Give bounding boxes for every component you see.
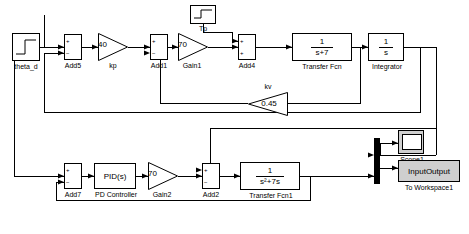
add4-sign-plus-1: + — [240, 38, 244, 44]
step-block[interactable] — [12, 33, 40, 61]
add4-sign-plus-2: + — [240, 50, 244, 56]
kv-gain-value: 0.45 — [254, 100, 284, 108]
transfer-fcn1-label: Transfer Fcn1 — [236, 192, 306, 200]
add2-sign-minus: − — [204, 179, 208, 185]
transfer-fcn-denominator: s+7 — [313, 49, 330, 57]
add2-label: Add2 — [196, 191, 226, 199]
add5-sign-minus: − — [66, 50, 70, 56]
pd-controller-text: PID(s) — [104, 172, 127, 181]
add7-sign-plus: + — [66, 167, 70, 173]
add5-sign-plus: + — [66, 38, 70, 44]
transfer-fcn-numerator: 1 — [318, 38, 326, 46]
gain2-value: 70 — [148, 170, 170, 178]
kv-label: kv — [250, 83, 286, 91]
to-workspace-label: To Workspace1 — [393, 184, 465, 192]
mux-block[interactable] — [374, 138, 380, 184]
to-workspace-text: InputOutput — [408, 167, 450, 176]
add1-label: Add1 — [144, 62, 174, 70]
add1-sign-plus: + — [152, 38, 156, 44]
kp-label: kp — [99, 62, 127, 70]
block-diagram-canvas: theta_d + − Add5 40 kp + − Add1 70 Gain1… — [0, 0, 469, 234]
add1-sign-minus: − — [152, 50, 156, 56]
pd-controller-label: PD Controller — [88, 191, 144, 199]
step-label: theta_d — [6, 63, 46, 71]
integrator-label: Integrator — [364, 63, 410, 71]
gain1-value: 70 — [178, 41, 200, 49]
integrator-denominator: s — [382, 49, 390, 57]
gain1-label: Gain1 — [175, 62, 209, 70]
tp-label: Tp — [189, 25, 217, 33]
transfer-fcn-label: Transfer Fcn — [288, 63, 356, 71]
pd-controller-block[interactable]: PID(s) — [94, 163, 136, 189]
tp-block[interactable] — [190, 5, 216, 24]
transfer-fcn-block[interactable]: 1 s+7 — [292, 33, 352, 61]
scope1-block[interactable] — [398, 130, 424, 154]
add4-label: Add4 — [232, 62, 262, 70]
transfer-fcn1-numerator: 1 — [266, 167, 274, 175]
transfer-fcn1-block[interactable]: 1 s²+7s — [240, 162, 300, 190]
add7-sign-minus: − — [66, 179, 70, 185]
integrator-numerator: 1 — [382, 38, 390, 46]
gain2-label: Gain2 — [145, 191, 179, 199]
to-workspace-block[interactable]: InputOutput — [398, 160, 460, 182]
add2-sign-plus: + — [204, 167, 208, 173]
integrator-block[interactable]: 1 s — [368, 33, 404, 61]
transfer-fcn1-denominator: s²+7s — [258, 178, 282, 186]
add5-label: Add5 — [58, 62, 88, 70]
add7-label: Add7 — [58, 191, 88, 199]
kp-gain-value: 40 — [98, 41, 120, 49]
